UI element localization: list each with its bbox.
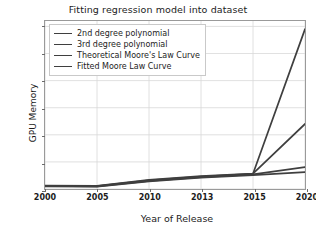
legend-line-icon [54,66,72,67]
y-tick-mark [42,54,45,55]
x-tick-label: 2005 [86,193,108,202]
x-tick-mark [202,189,203,192]
x-tick-mark [45,189,46,192]
legend-item[interactable]: 3rd degree polynomial [54,39,200,50]
legend-line-icon [54,55,72,56]
x-tick-label: 2010 [139,193,161,202]
x-tick-label: 2013 [191,193,213,202]
legend-line-icon [54,44,72,45]
legend-label: Fitted Moore Law Curve [77,61,171,72]
legend-item[interactable]: Fitted Moore Law Curve [54,61,200,72]
y-tick-mark [42,164,45,165]
legend-item[interactable]: Theoretical Moore's Law Curve [54,50,200,61]
legend-item[interactable]: 2nd degree polynomial [54,28,200,39]
x-tick-label: 2015 [243,193,265,202]
series-line [45,167,305,186]
x-tick-label: 2020 [296,193,316,202]
legend-label: Theoretical Moore's Law Curve [77,50,200,61]
y-tick-mark [42,136,45,137]
chart-figure: Fitting regression model into dataset GP… [0,0,316,226]
legend-line-icon [54,33,72,34]
x-tick-mark [150,189,151,192]
chart-title: Fitting regression model into dataset [0,4,316,15]
plot-area: 0102030405060 200020052010201320152020 2… [44,20,306,190]
x-tick-mark [97,189,98,192]
chart-legend[interactable]: 2nd degree polynomial3rd degree polynomi… [49,24,206,76]
y-tick-mark [42,109,45,110]
y-tick-mark [42,81,45,82]
series-line [45,172,305,186]
x-tick-mark [255,189,256,192]
x-tick-mark [307,189,308,192]
x-axis-label: Year of Release [44,213,310,224]
legend-label: 2nd degree polynomial [77,28,169,39]
y-tick-mark [42,26,45,27]
y-axis-label: GPU Memory [28,84,38,142]
legend-label: 3rd degree polynomial [77,39,167,50]
series-line [45,124,305,186]
x-tick-label: 2000 [34,193,56,202]
